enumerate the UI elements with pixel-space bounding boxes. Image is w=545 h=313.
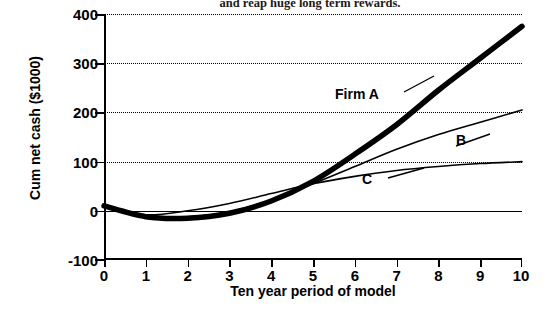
plot-area: 0 1 2 3 4 5 6 7 8 9 10 Firm A B C — [104, 14, 522, 260]
y-axis-title: Cum net cash ($1000) — [27, 8, 43, 248]
x-tick-label-1: 1 — [142, 267, 150, 284]
y-tick-300 — [95, 63, 104, 65]
curve-c — [104, 162, 522, 215]
y-tick-label-neg100: -100 — [68, 252, 98, 269]
x-tick-8 — [438, 259, 440, 267]
x-axis-title: Ten year period of model — [104, 283, 522, 299]
curve-firm-a — [104, 26, 522, 218]
series-label-b: B — [456, 132, 466, 148]
x-tick-2 — [188, 259, 190, 267]
x-tick-4 — [271, 259, 273, 267]
leader-firm-a — [404, 76, 434, 92]
x-tick-3 — [229, 259, 231, 267]
x-tick-9 — [480, 259, 482, 267]
x-tick-label-5: 5 — [309, 267, 317, 284]
y-axis-labels: 400 300 200 100 0 -100 — [42, 14, 98, 260]
chart-title: and reap huge long term rewards. — [160, 0, 460, 11]
x-tick-label-7: 7 — [392, 267, 400, 284]
x-tick-label-2: 2 — [183, 267, 191, 284]
x-tick-6 — [355, 259, 357, 267]
y-tick-0 — [95, 211, 104, 213]
x-tick-0 — [104, 259, 106, 267]
y-tick-200 — [95, 112, 104, 114]
x-tick-label-0: 0 — [100, 267, 108, 284]
x-tick-10 — [521, 259, 523, 267]
x-tick-label-10: 10 — [513, 267, 530, 284]
y-tick-100 — [95, 162, 104, 164]
y-tick-400 — [95, 14, 104, 16]
chart-figure: and reap huge long term rewards. Cum net… — [0, 0, 545, 313]
x-tick-7 — [397, 259, 399, 267]
x-tick-label-6: 6 — [351, 267, 359, 284]
series-label-firm-a: Firm A — [335, 86, 379, 102]
series-label-c: C — [362, 171, 372, 187]
x-tick-1 — [146, 259, 148, 267]
x-tick-5 — [313, 259, 315, 267]
x-tick-label-4: 4 — [267, 267, 275, 284]
x-tick-label-8: 8 — [434, 267, 442, 284]
curve-b — [104, 110, 522, 217]
x-tick-label-9: 9 — [476, 267, 484, 284]
y-tick-neg100 — [95, 259, 104, 261]
x-tick-label-3: 3 — [225, 267, 233, 284]
